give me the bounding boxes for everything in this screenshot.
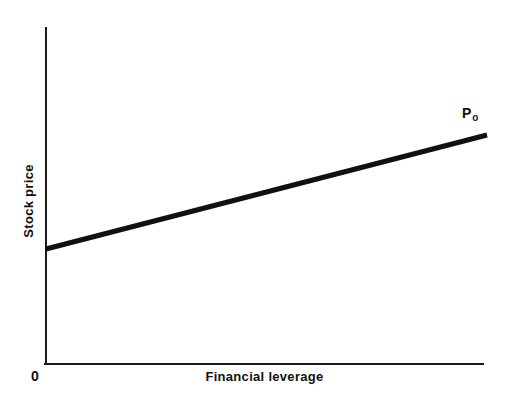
data-line-stock-price — [46, 135, 487, 249]
x-axis-title-text: Financial leverage — [205, 369, 323, 384]
origin-label-text: 0 — [31, 368, 39, 384]
y-axis-title-text: Stock price — [21, 164, 36, 237]
plot-area — [0, 0, 509, 402]
origin-label: 0 — [31, 368, 39, 384]
curve-label-subscript: o — [472, 112, 478, 123]
y-axis-title: Stock price — [0, 155, 56, 247]
curve-label-p-naught: Po — [462, 105, 478, 121]
curve-label-base: P — [462, 105, 472, 121]
chart-figure: Stock price Financial leverage 0 Po — [0, 0, 509, 402]
x-axis-title: Financial leverage — [46, 369, 483, 384]
